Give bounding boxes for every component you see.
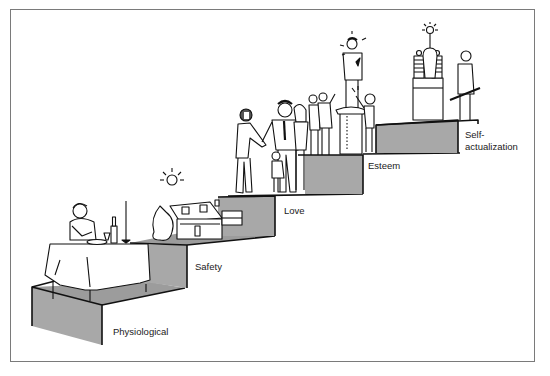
self-actualization-scene	[413, 22, 480, 120]
step-label-self-actualization-line2: actualization	[465, 141, 518, 153]
step-label-physiological: Physiological	[113, 326, 168, 338]
step-label-self-actualization-line1: Self-	[465, 129, 485, 141]
esteem-scene	[309, 31, 375, 155]
lightbulb-icon	[427, 27, 434, 34]
step-label-esteem: Esteem	[368, 160, 400, 172]
step-label-safety: Safety	[195, 261, 222, 273]
step-self-actualization	[376, 120, 478, 153]
love-scene	[236, 101, 308, 193]
sun-icon	[167, 175, 177, 185]
step-label-love: Love	[284, 205, 305, 217]
staircase-illustration	[0, 0, 550, 376]
